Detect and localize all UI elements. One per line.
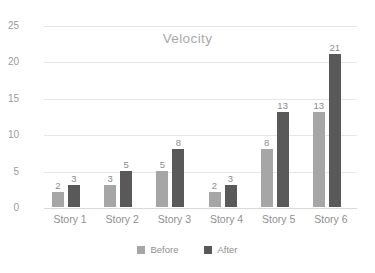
bar-after[interactable]: 5 <box>120 171 132 207</box>
legend-swatch-icon <box>204 246 212 254</box>
x-axis-category-label: Story 1 <box>44 213 96 227</box>
bar-value-label: 3 <box>71 174 76 184</box>
bar-before[interactable]: 13 <box>313 112 325 207</box>
legend-item-before[interactable]: Before <box>137 245 178 255</box>
bar-group: 35 <box>96 26 148 208</box>
bar-value-label: 8 <box>176 137 181 147</box>
bar-value-label: 3 <box>228 174 233 184</box>
y-axis-tick-label: 5 <box>0 167 19 177</box>
bar-before[interactable]: 8 <box>261 149 273 207</box>
velocity-bar-chart: Velocity 0510152025 233558238131321 Stor… <box>0 0 375 273</box>
y-axis-tick-label: 10 <box>0 130 19 140</box>
legend-item-after[interactable]: After <box>204 245 237 255</box>
bar-group: 23 <box>201 26 253 208</box>
x-axis-category-label: Story 5 <box>253 213 305 227</box>
bar-value-label: 21 <box>330 43 341 53</box>
bar-before[interactable]: 3 <box>104 185 116 207</box>
bar-value-label: 13 <box>277 101 288 111</box>
plot-area: 0510152025 233558238131321 <box>44 26 357 208</box>
bar-group: 23 <box>44 26 96 208</box>
bar-after[interactable]: 21 <box>329 54 341 207</box>
y-axis-tick-label: 20 <box>0 57 19 67</box>
bar-after[interactable]: 3 <box>68 185 80 207</box>
chart-legend: BeforeAfter <box>0 245 375 255</box>
bar-value-label: 2 <box>55 181 60 191</box>
bar-value-label: 2 <box>212 181 217 191</box>
x-axis-category-label: Story 3 <box>148 213 200 227</box>
x-axis-category-label: Story 4 <box>201 213 253 227</box>
bar-before[interactable]: 5 <box>156 171 168 207</box>
bar-before[interactable]: 2 <box>52 192 64 207</box>
y-axis-tick-label: 25 <box>0 21 19 31</box>
bar-group: 813 <box>253 26 305 208</box>
bar-after[interactable]: 13 <box>277 112 289 207</box>
x-axis-category-label: Story 6 <box>305 213 357 227</box>
bar-group: 58 <box>148 26 200 208</box>
bar-groups-layer: 233558238131321 <box>44 26 357 208</box>
bar-value-label: 5 <box>124 159 129 169</box>
legend-swatch-icon <box>137 246 145 254</box>
bar-before[interactable]: 2 <box>209 192 221 207</box>
x-axis-labels-group: Story 1Story 2Story 3Story 4Story 5Story… <box>44 213 357 231</box>
bar-value-label: 13 <box>314 101 325 111</box>
y-axis-tick-label: 0 <box>0 203 19 213</box>
bar-after[interactable]: 8 <box>172 149 184 207</box>
bar-after[interactable]: 3 <box>225 185 237 207</box>
legend-label: After <box>217 245 237 255</box>
bar-group: 1321 <box>305 26 357 208</box>
gridline <box>44 208 357 209</box>
bar-value-label: 5 <box>160 159 165 169</box>
bar-value-label: 8 <box>264 137 269 147</box>
y-axis-tick-label: 15 <box>0 94 19 104</box>
legend-label: Before <box>150 245 178 255</box>
x-axis-category-label: Story 2 <box>96 213 148 227</box>
bar-value-label: 3 <box>108 174 113 184</box>
